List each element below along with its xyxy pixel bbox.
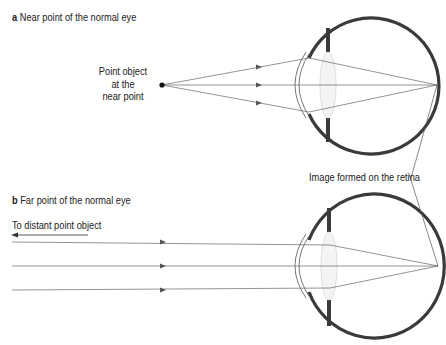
panel-b-title: b Far point of the normal eye (12, 194, 131, 206)
retina-label: Image formed on the retina (309, 171, 420, 183)
panel-a-title: a Near point of the normal eye (12, 11, 136, 23)
distant-object-label: To distant point object (12, 219, 101, 231)
eye-b (11, 194, 444, 338)
leader-line-a (411, 85, 437, 178)
point-object-label: Point object at the near point (92, 65, 154, 103)
point-object-dot (159, 82, 164, 87)
leader-line-b (409, 174, 438, 266)
eye-a (159, 18, 439, 154)
